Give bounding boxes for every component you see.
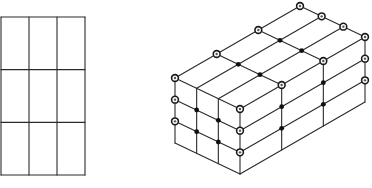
boundary-node-center [174, 120, 176, 122]
interior-node-dot [279, 126, 284, 131]
boundary-node-center [280, 84, 282, 86]
boundary-node-center [299, 5, 301, 7]
right-face-horizontal-line [240, 102, 365, 174]
boundary-node-center [239, 129, 241, 131]
boundary-node-center [239, 108, 241, 110]
boundary-node-center [364, 36, 366, 38]
boundary-node-center [257, 29, 259, 31]
interior-node-dot [216, 140, 221, 145]
right-face-horizontal-line [240, 59, 365, 131]
interior-node-dot [216, 118, 221, 123]
boundary-node-center [239, 151, 241, 153]
interior-node-dot [194, 108, 199, 113]
interior-node-dot [258, 72, 263, 77]
interior-node-dot [279, 104, 284, 109]
figure-canvas [0, 0, 372, 188]
boundary-node-center [342, 25, 344, 27]
isometric-block-diagram [172, 3, 369, 174]
interior-node-dot [321, 80, 326, 85]
boundary-node-center [174, 98, 176, 100]
interior-node-dot [278, 38, 283, 43]
interior-node-dot [321, 102, 326, 107]
flat-grid-diagram [1, 17, 85, 175]
interior-node-dot [299, 48, 304, 53]
interior-node-dot [194, 129, 199, 134]
boundary-node-center [320, 15, 322, 17]
interior-node-dot [236, 62, 241, 67]
boundary-node-center [174, 77, 176, 79]
boundary-node-center [364, 57, 366, 59]
boundary-node-center [364, 79, 366, 81]
boundary-node-center [322, 60, 324, 62]
right-face-horizontal-line [240, 80, 365, 152]
boundary-node-center [215, 53, 217, 55]
